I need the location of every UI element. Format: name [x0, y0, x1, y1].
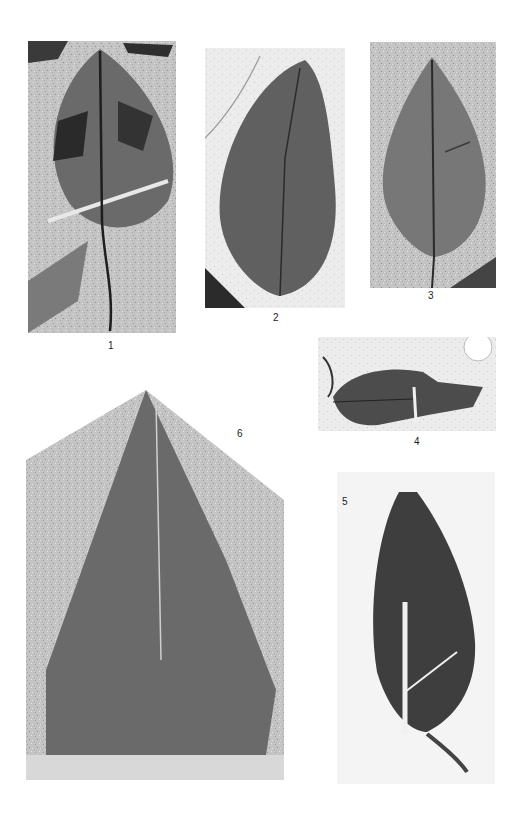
figure-label-5: 5: [342, 496, 348, 507]
figure-6-photo: [26, 390, 284, 780]
figure-5-photo: [337, 472, 495, 784]
figure-4-photo: [318, 337, 496, 431]
figure-3-photo: [370, 42, 496, 288]
figure-label-3: 3: [428, 290, 434, 301]
figure-label-4: 4: [414, 436, 420, 447]
figure-1-photo: [28, 41, 176, 333]
figure-2-photo: [205, 48, 345, 308]
figure-label-6: 6: [237, 428, 243, 439]
figure-label-1: 1: [108, 340, 114, 351]
figure-label-2: 2: [273, 312, 279, 323]
